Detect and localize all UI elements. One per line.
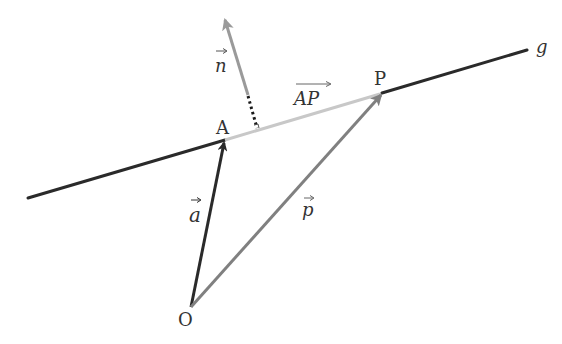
label-vec-ap: AP <box>292 82 331 110</box>
label-origin: O <box>178 309 193 330</box>
label-line-g: g <box>536 36 548 57</box>
svg-text:a: a <box>189 203 201 227</box>
svg-text:n: n <box>215 55 227 76</box>
label-vec-n: n <box>215 49 227 77</box>
normal-dotted-extension <box>248 96 257 128</box>
label-point-p: P <box>374 68 386 89</box>
vector-n <box>225 20 248 95</box>
svg-text:AP: AP <box>292 88 320 109</box>
svg-text:p: p <box>302 199 314 220</box>
label-vec-p: p <box>302 196 314 221</box>
line-g-right <box>382 50 527 93</box>
label-vec-a: a <box>189 198 201 228</box>
line-g-left <box>28 140 225 198</box>
label-point-a: A <box>215 117 230 138</box>
vector-diagram: g A P O a p n AP <box>0 0 562 344</box>
